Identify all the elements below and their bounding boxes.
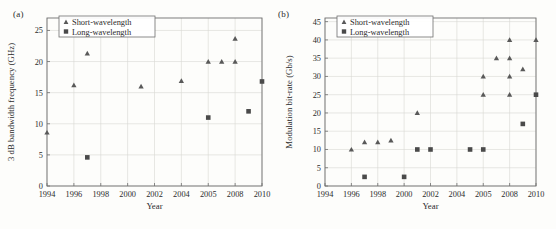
data-point-short-wavelength (71, 83, 76, 88)
y-axis-title: Modulation bit-rate (Gb/s) (284, 55, 294, 148)
x-tick-label: 2000 (396, 190, 413, 199)
y-tick-label: 15 (35, 89, 43, 98)
x-tick-label: 1998 (92, 190, 109, 199)
data-point-short-wavelength (44, 130, 49, 135)
x-tick-label: 1998 (369, 190, 386, 199)
data-point-short-wavelength (179, 78, 184, 83)
panel-b-label: (b) (278, 9, 289, 19)
y-tick-label: 20 (35, 58, 43, 67)
data-point-long-wavelength (468, 147, 473, 152)
legend-label: Long-wavelength (72, 28, 132, 37)
x-tick-label: 2002 (422, 190, 439, 199)
x-tick-label: 2008 (501, 190, 518, 199)
gridlines (47, 18, 262, 186)
y-tick-label: 5 (39, 151, 43, 160)
legend-label: Long-wavelength (350, 28, 410, 37)
x-tick-label: 2002 (146, 190, 163, 199)
x-tick-label: 2008 (227, 190, 244, 199)
panel-b: (b) 051015202530354045199419961998200020… (278, 0, 556, 229)
y-axis: 0510152025 (35, 26, 50, 191)
legend-label: Short-wavelength (72, 18, 132, 27)
legend-marker-long-wavelength (64, 29, 68, 33)
figure-container: (a) 051015202519941996199820002002200420… (0, 0, 556, 229)
series-long-wavelength (362, 92, 538, 179)
data-point-short-wavelength (138, 84, 143, 89)
data-point-long-wavelength (402, 175, 407, 180)
y-tick-label: 10 (35, 120, 43, 129)
gridlines (325, 18, 536, 186)
y-tick-label: 10 (313, 145, 321, 154)
legend-label: Short-wavelength (350, 18, 410, 27)
y-tick-label: 25 (35, 26, 43, 35)
x-axis: 199419961998200020022004200520082010 (317, 183, 545, 199)
y-tick-label: 15 (313, 127, 321, 136)
data-point-long-wavelength (481, 147, 486, 152)
x-axis-title: Year (422, 201, 438, 211)
legend-marker-long-wavelength (342, 29, 346, 33)
x-tick-label: 2004 (173, 190, 190, 199)
y-axis: 051015202530354045 (313, 18, 328, 191)
x-axis-title: Year (146, 201, 162, 211)
x-tick-label: 2004 (449, 190, 466, 199)
data-point-short-wavelength (85, 51, 90, 56)
data-point-long-wavelength (85, 155, 90, 160)
x-tick-label: 2005 (475, 190, 492, 199)
data-point-long-wavelength (428, 147, 433, 152)
data-point-short-wavelength (520, 67, 525, 72)
y-tick-label: 35 (313, 54, 321, 63)
y-tick-label: 30 (313, 72, 321, 81)
data-point-long-wavelength (521, 122, 526, 127)
panel-b-chart: 0510152025303540451994199619982000200220… (278, 0, 556, 229)
x-tick-label: 1994 (39, 190, 56, 199)
data-point-long-wavelength (260, 79, 265, 84)
data-point-long-wavelength (362, 175, 367, 180)
data-point-long-wavelength (206, 115, 211, 120)
y-tick-label: 45 (313, 18, 321, 27)
x-tick-label: 1994 (317, 190, 334, 199)
y-tick-label: 40 (313, 36, 321, 45)
data-point-long-wavelength (415, 147, 420, 152)
x-axis: 199419961998200020022004200520082010 (39, 183, 271, 199)
y-axis-title: 3 dB bandwidth frequency (GHz) (6, 43, 16, 161)
panel-a-chart: 0510152025199419961998200020022004200520… (0, 0, 278, 229)
data-point-long-wavelength (246, 109, 251, 114)
x-tick-label: 2010 (528, 190, 545, 199)
x-tick-label: 2000 (119, 190, 136, 199)
data-point-short-wavelength (388, 138, 393, 143)
x-tick-label: 1996 (343, 190, 360, 199)
x-tick-label: 1996 (66, 190, 83, 199)
legend: Short-wavelengthLong-wavelength (59, 16, 155, 37)
x-tick-label: 2005 (200, 190, 217, 199)
data-point-long-wavelength (534, 92, 539, 97)
data-point-short-wavelength (232, 36, 237, 41)
y-tick-label: 20 (313, 109, 321, 118)
data-point-short-wavelength (375, 140, 380, 145)
data-point-short-wavelength (362, 140, 367, 145)
x-tick-label: 2010 (254, 190, 271, 199)
y-tick-label: 25 (313, 91, 321, 100)
panel-a-label: (a) (13, 9, 24, 19)
legend: Short-wavelengthLong-wavelength (337, 16, 433, 37)
y-tick-label: 5 (317, 164, 321, 173)
series-long-wavelength (85, 79, 264, 160)
panel-a: (a) 051015202519941996199820002002200420… (0, 0, 278, 229)
